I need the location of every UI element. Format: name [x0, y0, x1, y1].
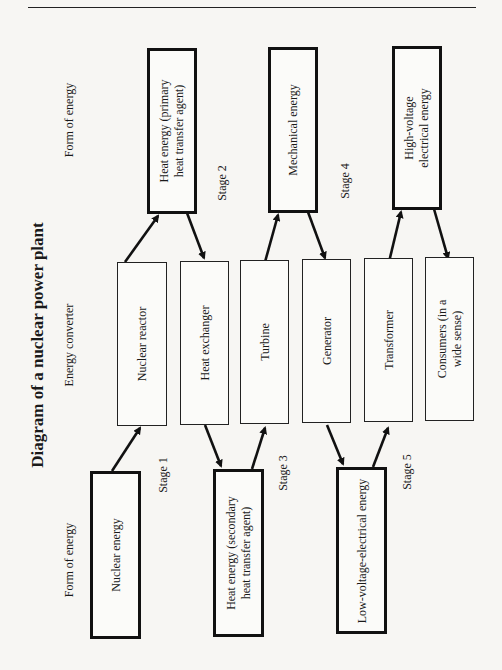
energy-form-label: Heat energy (primary heat transfer agent…: [157, 79, 187, 182]
stage-3-label: Stage 3: [276, 455, 291, 491]
converter-heat-exchanger: Heat exchanger: [180, 261, 229, 425]
stage-5-label: Stage 5: [400, 454, 415, 490]
converter-generator: Generator: [302, 259, 351, 423]
energy-form-label: Mechanical energy: [286, 84, 301, 175]
converter-label: Generator: [319, 317, 334, 365]
energy-form-mechanical: Mechanical energy: [268, 47, 318, 213]
converter-label: Heat exchanger: [197, 306, 212, 381]
converter-consumers: Consumers (in a wide sense): [425, 257, 474, 421]
converter-transformer: Transformer: [364, 258, 413, 422]
converter-label: Turbine: [257, 323, 272, 361]
energy-form-nuclear: Nuclear energy: [90, 471, 141, 639]
energy-form-heat-secondary: Heat energy (secondary heat transfer age…: [213, 469, 264, 637]
energy-form-label: Nuclear energy: [108, 518, 123, 591]
stage-4-label: Stage 4: [338, 163, 353, 199]
energy-form-high-voltage: High-voltage electrical energy: [392, 46, 442, 210]
converter-label: Transformer: [381, 310, 396, 370]
energy-form-label: Heat energy (secondary heat transfer age…: [224, 496, 254, 610]
converter-turbine: Turbine: [240, 260, 289, 424]
energy-form-low-voltage: Low-voltage-electrical energy: [336, 467, 387, 634]
converter-label: Consumers (in a wide sense): [435, 300, 465, 379]
energy-form-label: High-voltage electrical energy: [402, 88, 432, 167]
energy-form-heat-primary: Heat energy (primary heat transfer agent…: [147, 48, 197, 214]
energy-form-label: Low-voltage-electrical energy: [354, 478, 369, 623]
converter-nuclear-reactor: Nuclear reactor: [117, 262, 167, 426]
stage-1-label: Stage 1: [156, 457, 171, 493]
converter-label: Nuclear reactor: [135, 307, 150, 381]
stage-2-label: Stage 2: [215, 165, 230, 201]
